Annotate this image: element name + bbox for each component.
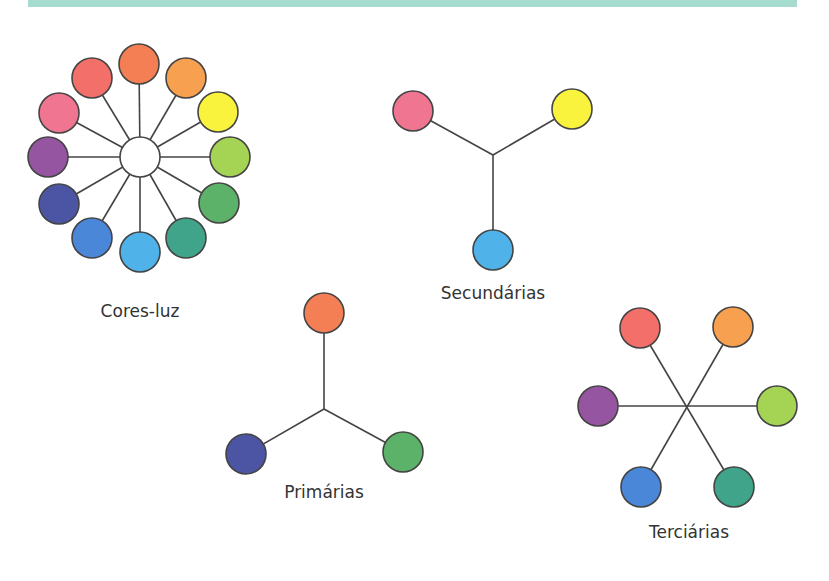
- color-circle-purple: [28, 137, 68, 177]
- color-circle-green: [383, 432, 423, 472]
- color-circle-lime: [757, 386, 797, 426]
- color-circle-blue: [72, 218, 112, 258]
- color-circle-coral: [620, 308, 660, 348]
- diagram-primarias: [226, 293, 423, 474]
- color-circle-orange-red: [304, 293, 344, 333]
- diagram-terciarias: [578, 307, 797, 507]
- color-circle-yellow: [552, 89, 592, 129]
- label-cores-luz: Cores-luz: [101, 301, 180, 321]
- color-circle-light-blue: [473, 230, 513, 270]
- label-terciarias: Terciárias: [649, 522, 729, 542]
- color-circle-purple: [578, 386, 618, 426]
- color-circle-orange: [713, 307, 753, 347]
- white-center-circle: [120, 137, 160, 177]
- diagram-secundarias: [393, 89, 592, 270]
- color-circle-lime: [210, 137, 250, 177]
- color-circle-orange: [166, 58, 206, 98]
- label-secundarias: Secundárias: [441, 283, 545, 303]
- color-circle-yellow: [198, 92, 238, 132]
- color-circle-indigo: [226, 434, 266, 474]
- color-circle-indigo: [39, 184, 79, 224]
- color-circle-blue: [621, 467, 661, 507]
- color-diagrams: [0, 0, 829, 581]
- diagram-cores-luz: [28, 44, 250, 272]
- color-circle-pink: [39, 93, 79, 133]
- color-circle-orange-red: [119, 44, 159, 84]
- color-circle-green: [199, 183, 239, 223]
- color-circle-pink: [393, 91, 433, 131]
- color-circle-teal: [166, 218, 206, 258]
- color-circle-teal: [714, 467, 754, 507]
- color-circle-coral: [72, 58, 112, 98]
- color-circle-light-blue: [120, 232, 160, 272]
- label-primarias: Primárias: [284, 482, 364, 502]
